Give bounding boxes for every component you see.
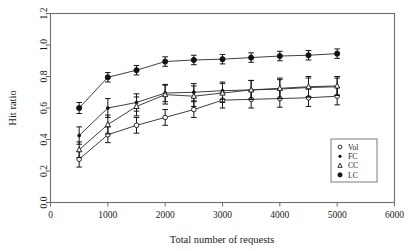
data-point-marker-filled-circle [306, 53, 311, 58]
chart-legend[interactable]: VolFCCCLC [331, 139, 377, 182]
data-point-marker-open-circle [338, 145, 342, 149]
data-point-marker-filled-circle [191, 57, 196, 62]
legend-item-label: LC [348, 171, 358, 180]
data-point-marker-filled-circle [105, 75, 110, 80]
data-point-marker-filled-circle [220, 57, 225, 62]
data-point-marker-small-dot [106, 107, 109, 110]
data-point-marker-open-circle [134, 123, 139, 128]
legend-item-label: Vol [348, 143, 358, 152]
data-point-marker-filled-circle [277, 53, 282, 58]
y-tick-label: 0.4 [39, 133, 49, 145]
y-tick-label: 0.2 [39, 165, 49, 177]
y-axis-label: Hit ratio [7, 90, 18, 125]
x-tick-label: 3000 [213, 210, 232, 220]
x-tick-label: 4000 [270, 210, 289, 220]
data-point-marker-filled-circle [335, 51, 340, 56]
data-point-marker-small-dot [78, 134, 81, 137]
x-tick-label: 0 [48, 210, 53, 220]
x-tick-label: 5000 [328, 210, 347, 220]
y-tick-label: 1.0 [39, 39, 49, 51]
legend-item-label: CC [348, 161, 358, 170]
y-tick-label: 0.0 [39, 196, 49, 208]
figure-container: 0.00.20.40.60.81.01.2 010002000300040005… [0, 0, 417, 251]
hit-ratio-line-chart: 0.00.20.40.60.81.01.2 010002000300040005… [0, 0, 417, 251]
data-point-marker-small-dot [339, 155, 341, 157]
data-point-marker-filled-circle [134, 68, 139, 73]
chart-background [0, 0, 417, 251]
legend-item-label: FC [348, 152, 357, 161]
data-point-marker-filled-circle [249, 55, 254, 60]
data-point-marker-filled-circle [163, 59, 168, 64]
x-tick-label: 6000 [385, 210, 404, 220]
x-tick-label: 2000 [156, 210, 175, 220]
x-tick-label: 1000 [98, 210, 117, 220]
y-tick-label: 0.6 [39, 102, 49, 114]
data-point-marker-filled-circle [338, 173, 342, 177]
y-tick-label: 1.2 [39, 7, 49, 19]
x-axis-label: Total number of requests [170, 234, 275, 245]
data-point-marker-filled-circle [77, 105, 82, 110]
data-point-marker-open-circle [163, 115, 168, 120]
y-tick-label: 0.8 [39, 70, 49, 82]
data-point-marker-open-circle [192, 107, 197, 112]
